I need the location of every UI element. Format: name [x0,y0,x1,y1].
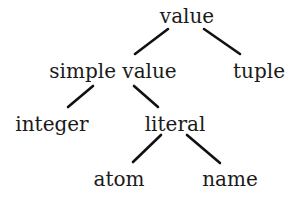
edge-value-tuple [204,29,240,54]
node-tuple: tuple [233,61,285,81]
edge-simple-value-literal [134,86,158,107]
edge-simple-value-integer [68,86,93,107]
edge-literal-name [187,135,220,163]
edge-literal-atom [133,135,161,162]
node-literal: literal [145,114,206,134]
node-value: value [160,6,214,26]
node-atom: atom [94,169,145,189]
tree-diagram: value simple value tuple integer literal… [0,0,304,202]
node-integer: integer [15,114,88,134]
tree-edges [0,0,304,202]
node-name: name [202,169,258,189]
edge-value-simple-value [135,29,168,54]
node-simple-value: simple value [49,61,176,81]
